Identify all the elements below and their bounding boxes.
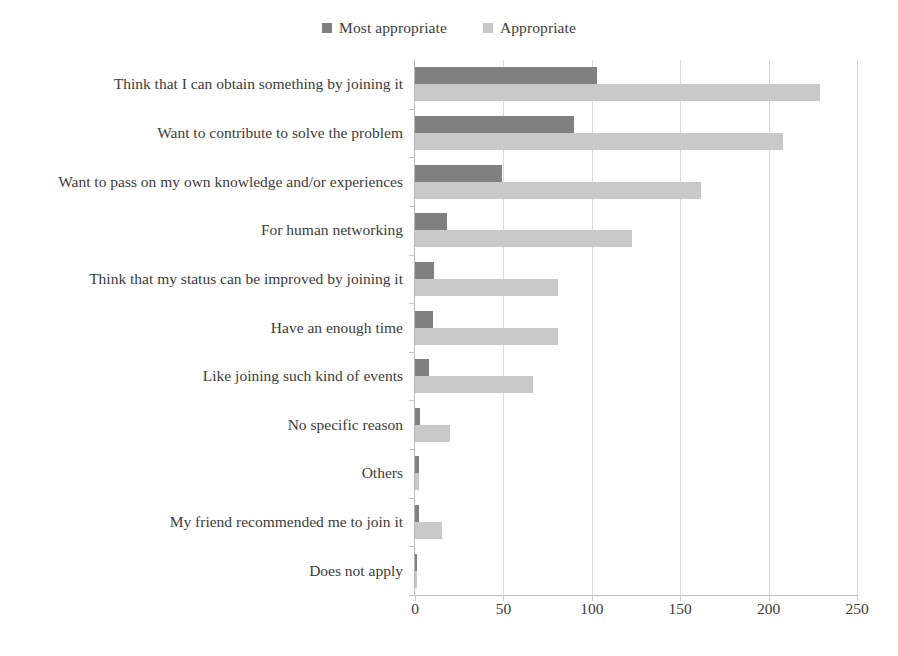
y-axis-category-label: Others — [15, 464, 415, 482]
legend-swatch-most-appropriate — [322, 23, 332, 33]
y-axis-labels: Think that I can obtain something by joi… — [0, 60, 415, 595]
y-axis-category-label: For human networking — [15, 221, 415, 239]
x-axis-tick-label: 250 — [845, 600, 868, 618]
y-axis-category-label: Have an enough time — [15, 319, 415, 337]
x-axis-labels: 050100150200250 — [415, 0, 875, 656]
x-axis-tick-label: 150 — [669, 600, 692, 618]
y-axis-category-label: Think that my status can be improved by … — [15, 270, 415, 288]
y-axis-category-label: Think that I can obtain something by joi… — [15, 75, 415, 93]
y-axis-category-label: No specific reason — [15, 416, 415, 434]
x-axis-tick-label: 100 — [580, 600, 603, 618]
y-axis-category-label: My friend recommended me to join it — [15, 513, 415, 531]
x-axis-tick-label: 200 — [757, 600, 780, 618]
x-axis-tick-label: 0 — [411, 600, 419, 618]
y-axis-category-label: Like joining such kind of events — [15, 367, 415, 385]
y-axis-category-label: Does not apply — [15, 562, 415, 580]
y-axis-category-label: Want to contribute to solve the problem — [15, 124, 415, 142]
bar-chart: Most appropriate Appropriate Think that … — [0, 0, 898, 656]
y-axis-category-label: Want to pass on my own knowledge and/or … — [15, 173, 415, 191]
x-axis-tick-label: 50 — [496, 600, 512, 618]
